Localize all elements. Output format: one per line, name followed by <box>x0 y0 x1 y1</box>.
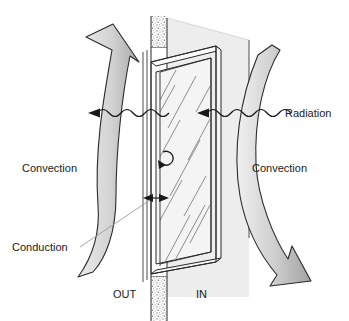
radiation-label: Radiation <box>285 107 331 119</box>
in-label: IN <box>196 288 207 300</box>
conduction-label: Conduction <box>12 241 68 253</box>
glass-edge-lines <box>143 50 147 282</box>
convection-inside-label: Convection <box>252 162 307 174</box>
convection-arrow-outside <box>78 24 139 277</box>
heat-transfer-window-diagram: Radiation Convection Convection Conducti… <box>0 0 349 321</box>
convection-outside-label: Convection <box>22 162 77 174</box>
wall-section-top <box>151 16 167 48</box>
wall-section-bottom <box>151 276 167 321</box>
out-label: OUT <box>113 288 137 300</box>
diagram-canvas: Radiation Convection Convection Conducti… <box>0 0 349 321</box>
